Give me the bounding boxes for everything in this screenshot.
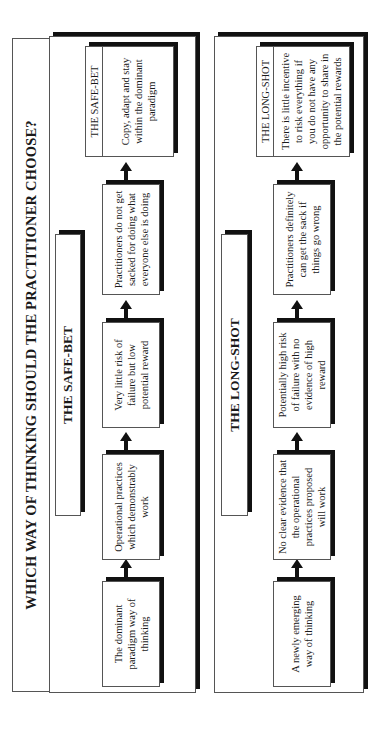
outcome-text: There is little incentive to risk everyt… xyxy=(274,47,349,156)
right-arrow-icon xyxy=(120,432,132,450)
right-arrow-icon xyxy=(291,559,303,577)
step-text: Practitioners definitely can get the sac… xyxy=(283,189,322,290)
step-box: Operational practices which demonstrably… xyxy=(102,454,160,560)
right-arrow-icon xyxy=(291,162,303,180)
step-box: The dominant paradigm way of thinking xyxy=(102,581,160,687)
row-label: THE LONG-SHOT xyxy=(227,318,243,432)
title-text: WHICH WAY OF THINKING SHOULD THE PRACTIT… xyxy=(23,120,40,610)
step-box: Potentially high risk of failure with no… xyxy=(273,322,331,428)
step-text: A newly emerging way of thinking xyxy=(289,586,315,682)
right-arrow-icon xyxy=(291,300,303,318)
outcome-box: THE LONG-SHOT There is little incentive … xyxy=(256,46,350,157)
step-box: Practitioners do not get sacked for doin… xyxy=(102,184,160,295)
outcome-header: THE SAFE-BET xyxy=(86,47,103,156)
step-box: No clear evidence that the operational p… xyxy=(273,454,331,560)
right-arrow-icon xyxy=(291,432,303,450)
row-label-box: THE LONG-SHOT xyxy=(221,234,248,516)
diagram: WHICH WAY OF THINKING SHOULD THE PRACTIT… xyxy=(0,0,376,736)
step-text: Operational practices which demonstrably… xyxy=(112,459,151,555)
step-box: A newly emerging way of thinking xyxy=(273,581,331,687)
row-label-box: THE SAFE-BET xyxy=(55,234,81,516)
right-arrow-icon xyxy=(120,300,132,318)
outcome-header: THE LONG-SHOT xyxy=(257,47,274,156)
step-box: Practitioners definitely can get the sac… xyxy=(273,184,331,295)
step-text: Very little risk of failure but low pote… xyxy=(112,327,151,423)
step-text: No clear evidence that the operational p… xyxy=(276,459,328,555)
right-arrow-icon xyxy=(120,162,132,180)
step-box: Very little risk of failure but low pote… xyxy=(102,322,160,428)
row-label: THE SAFE-BET xyxy=(60,326,76,424)
outcome-box: THE SAFE-BET Copy, adapt and stay within… xyxy=(85,46,174,157)
step-text: Practitioners do not get sacked for doin… xyxy=(112,189,151,290)
step-text: Potentially high risk of failure with no… xyxy=(276,327,328,423)
step-text: The dominant paradigm way of thinking xyxy=(112,586,151,682)
outcome-text: Copy, adapt and stay within the dominant… xyxy=(103,47,173,156)
right-arrow-icon xyxy=(120,559,132,577)
diagram-title: WHICH WAY OF THINKING SHOULD THE PRACTIT… xyxy=(12,38,50,692)
